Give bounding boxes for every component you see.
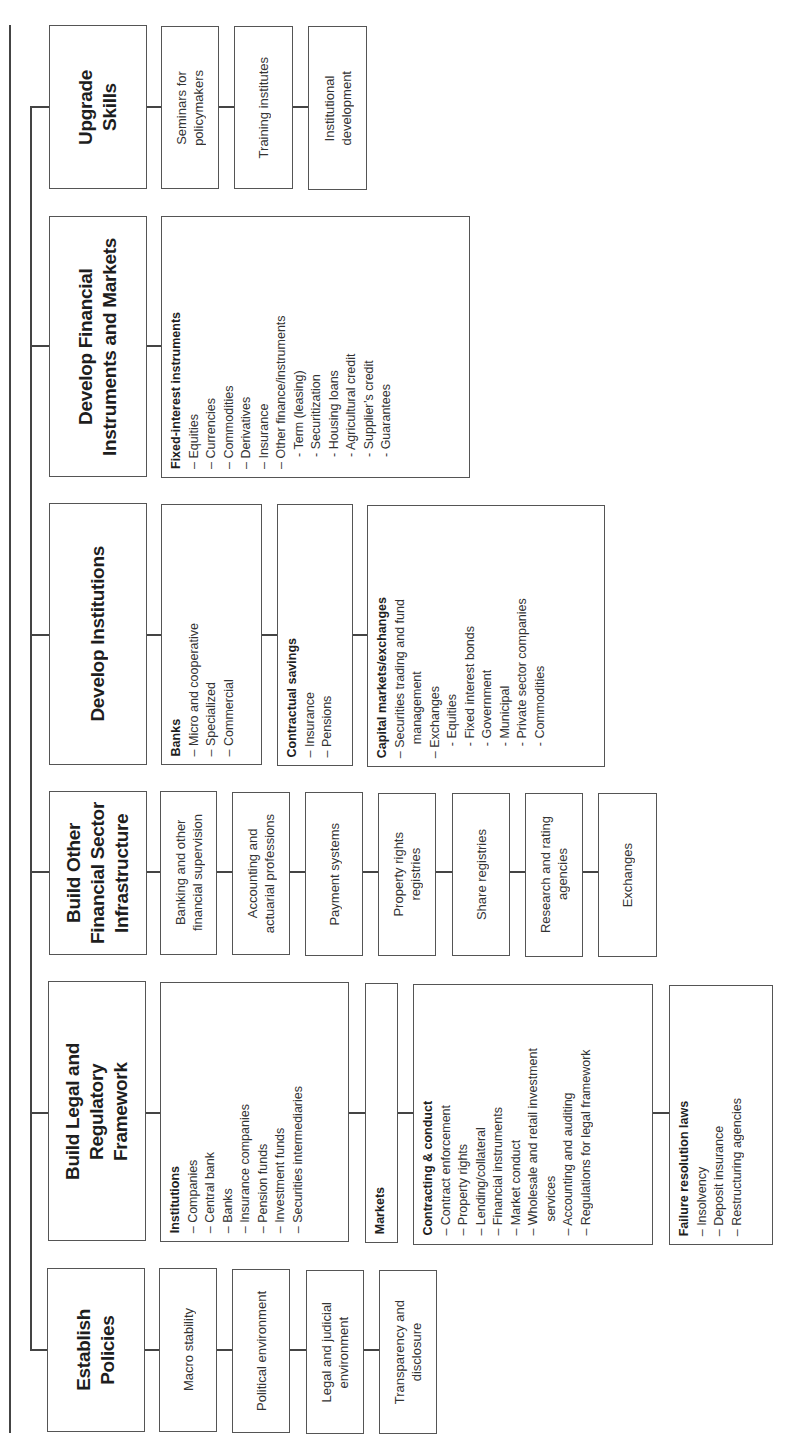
- connector: [147, 871, 160, 873]
- connector: [290, 871, 305, 873]
- connector: [147, 106, 161, 108]
- node-transparency-disclosure: Transparency anddisclosure: [379, 1270, 437, 1434]
- branch-title: Build Other: [63, 823, 84, 923]
- connector: [349, 1112, 365, 1114]
- node-fixed-interest-instruments: Fixed-interest instruments – Equities – …: [161, 216, 470, 478]
- connector: [364, 1349, 379, 1351]
- node-banking-supervision: Banking and otherfinancial supervision: [160, 791, 217, 955]
- connector: [30, 345, 49, 347]
- branch-title: Develop Financial: [75, 268, 96, 424]
- connector: [510, 871, 525, 873]
- branch-upgrade-skills: UpgradeSkills: [49, 25, 147, 189]
- connector: [363, 871, 378, 873]
- branch-title: Upgrade: [75, 70, 96, 145]
- node-contractual-savings: Contractual savings – Insurance – Pensio…: [277, 504, 353, 766]
- connector: [146, 1112, 160, 1114]
- node-accounting-actuarial: Accounting andactuarial professions: [232, 792, 290, 955]
- connector: [653, 1112, 669, 1114]
- node-seminars-for-policymakers: Seminars forpolicymakers: [161, 26, 219, 189]
- outer-rule: [9, 25, 11, 1433]
- node-political-environment: Political environment: [232, 1269, 290, 1433]
- node-contracting-conduct: Contracting & conduct – Contract enforce…: [413, 984, 653, 1245]
- connector: [219, 106, 234, 108]
- connector: [583, 871, 598, 873]
- branch-title: Establish: [73, 1309, 94, 1391]
- node-markets: Markets: [365, 983, 398, 1243]
- connector: [398, 1112, 413, 1114]
- node-capital-markets-exchanges: Capital markets/exchanges – Securities t…: [367, 505, 605, 767]
- connector: [217, 871, 232, 873]
- branch-build-legal-framework: Build Legal andRegulatoryFramework: [48, 981, 146, 1241]
- branch-title: Build Legal and: [62, 1043, 83, 1180]
- connector: [30, 1112, 49, 1114]
- connector: [262, 634, 277, 636]
- connector: [217, 1349, 232, 1351]
- node-payment-systems: Payment systems: [305, 792, 363, 956]
- connector: [147, 345, 161, 347]
- connector: [30, 634, 49, 636]
- node-exchanges: Exchanges: [598, 793, 657, 957]
- connector: [145, 1349, 159, 1351]
- connector: [436, 871, 452, 873]
- branch-build-other-infrastructure: Build OtherFinancial SectorInfrastructur…: [49, 791, 147, 955]
- node-macro-stability: Macro stability: [159, 1268, 217, 1432]
- node-legal-institutions: Institutions – Companies – Central bank …: [160, 982, 349, 1242]
- node-legal-judicial-environment: Legal and judicialenvironment: [306, 1270, 364, 1434]
- node-training-institutes: Training institutes: [234, 26, 293, 189]
- connector: [30, 106, 49, 108]
- connector: [30, 871, 49, 873]
- connector: [293, 106, 308, 108]
- node-institutional-development: Institutionaldevelopment: [308, 26, 367, 190]
- node-failure-resolution-laws: Failure resolution laws – Insolvency – D…: [669, 985, 773, 1245]
- trunk-line: [30, 106, 32, 1350]
- node-banks: Banks – Micro and cooperative – Speciali…: [161, 504, 262, 765]
- connector: [353, 634, 367, 636]
- branch-establish-policies: EstablishPolicies: [47, 1268, 145, 1432]
- node-research-rating-agencies: Research and ratingagencies: [525, 793, 583, 957]
- branch-develop-institutions: Develop Institutions: [49, 503, 147, 765]
- connector: [147, 634, 161, 636]
- branch-develop-financial-instruments: Develop FinancialInstruments and Markets: [49, 216, 147, 477]
- node-share-registries: Share registries: [452, 793, 510, 956]
- connector: [290, 1349, 306, 1351]
- branch-title: Develop Institutions: [87, 546, 108, 722]
- node-property-rights-registries: Property rightsregistries: [378, 793, 436, 956]
